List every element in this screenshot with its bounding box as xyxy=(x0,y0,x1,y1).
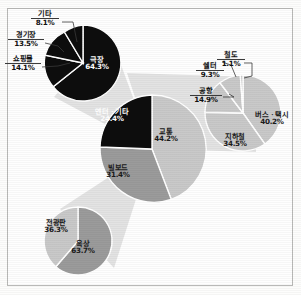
label-ent-theater-value: 64.3% xyxy=(80,63,114,70)
label-bb-rooftop-value: 63.7% xyxy=(66,247,100,254)
label-tr-subway: 지하철 34.5% xyxy=(216,133,254,148)
label-tr-airport: 공항 14.9% xyxy=(190,87,222,104)
label-main-transport: 교통 44.2% xyxy=(147,128,185,143)
label-main-transport-value: 44.2% xyxy=(147,135,185,142)
label-bb-rooftop: 옥상 63.7% xyxy=(66,240,100,255)
label-main-entertainment-value: 24.4% xyxy=(88,115,136,122)
label-ent-theater: 극장 64.3% xyxy=(80,56,114,71)
label-main-billboard-value: 31.4% xyxy=(99,171,137,178)
label-ent-mall: 쇼핑몰 14.1% xyxy=(5,55,41,72)
label-bb-led-value: 36.3% xyxy=(38,226,74,233)
label-tr-shelter-value: 9.3% xyxy=(196,71,224,78)
label-ent-etc: 기타 8.1% xyxy=(31,10,59,27)
label-ent-mall-value: 14.1% xyxy=(5,64,41,71)
label-ent-stadium: 경기장 13.5% xyxy=(8,31,44,48)
chart-figure: 기타 8.1% 경기장 13.5% 쇼핑몰 14.1% 극장 64.3% 엔터ㆍ… xyxy=(0,0,301,295)
label-tr-subway-value: 34.5% xyxy=(216,140,254,147)
label-ent-stadium-value: 13.5% xyxy=(8,40,44,47)
pie-of-pie-chart xyxy=(0,0,301,295)
label-tr-bus-taxi-value: 40.2% xyxy=(250,118,294,125)
label-tr-bus-taxi: 버스ㆍ택시 40.2% xyxy=(250,111,294,126)
label-main-entertainment: 엔터ㆍ기타 24.4% xyxy=(88,108,136,123)
label-ent-etc-value: 8.1% xyxy=(31,19,59,26)
label-tr-shelter: 쉘터 9.3% xyxy=(196,62,224,79)
label-main-billboard: 빌보드 31.4% xyxy=(99,164,137,179)
label-tr-airport-value: 14.9% xyxy=(190,96,222,103)
label-bb-led: 전광판 36.3% xyxy=(38,219,74,234)
